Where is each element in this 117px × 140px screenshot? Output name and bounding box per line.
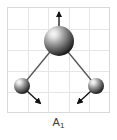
- mode-label-symbol: A: [53, 116, 61, 128]
- grid-panel: [7, 7, 110, 113]
- mode-label-subscript: 1: [60, 121, 64, 130]
- right-atom: [88, 78, 104, 94]
- left-atom-arrow: [27, 91, 41, 104]
- left-atom: [14, 78, 30, 94]
- mode-label: A1: [0, 116, 117, 132]
- molecule-diagram: [8, 8, 110, 113]
- vibrational-mode-figure: A1: [0, 0, 117, 140]
- right-atom-arrow: [78, 91, 92, 104]
- central-atom: [44, 26, 74, 56]
